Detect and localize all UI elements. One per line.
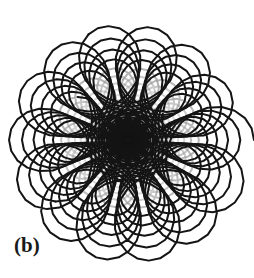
panel-label: (b)	[14, 232, 40, 258]
curve-segment	[128, 138, 130, 141]
figure-panel: (b)	[0, 0, 254, 278]
